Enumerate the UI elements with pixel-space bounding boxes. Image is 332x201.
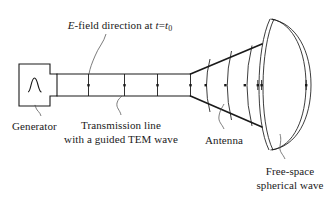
free-space-field-ticks bbox=[258, 80, 306, 90]
label-antenna: Antenna bbox=[205, 134, 243, 146]
label-transmission-line-2: with a guided TEM wave bbox=[64, 133, 178, 145]
free-space-spherical-wave-arcs bbox=[259, 19, 311, 150]
figure-container: E-field direction at t=t0 Generator Tran… bbox=[0, 0, 332, 201]
label-generator: Generator bbox=[12, 120, 57, 132]
leader-transmission-line bbox=[117, 96, 122, 115]
label-efield-direction: E-field direction at t=t0 bbox=[68, 19, 173, 35]
leader-generator bbox=[35, 105, 41, 116]
label-free-space-1: Free-space bbox=[266, 165, 315, 177]
label-efield-text: -field direction at bbox=[74, 19, 155, 31]
sine-wave-icon bbox=[28, 78, 42, 92]
leader-efield bbox=[89, 34, 106, 74]
label-efield-E: E bbox=[68, 19, 75, 31]
efield-tick-lines bbox=[89, 74, 191, 96]
label-free-space-2: spherical wave bbox=[256, 179, 323, 191]
label-efield-subscript: 0 bbox=[168, 24, 172, 33]
label-transmission-line-1: Transmission line bbox=[81, 119, 161, 131]
free-space-arc-field-markers bbox=[257, 84, 308, 86]
efield-direction-markers bbox=[87, 84, 191, 86]
horn-arc-field-markers bbox=[205, 84, 247, 86]
